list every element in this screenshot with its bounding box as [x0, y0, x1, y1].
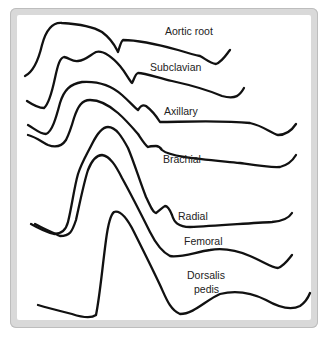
label-aortic-root: Aortic root: [165, 25, 213, 37]
wave-brachial: [28, 100, 296, 167]
wave-radial: [31, 127, 292, 234]
pulse-waveform-diagram: Aortic root Subclavian Axillary Brachial…: [0, 0, 332, 342]
label-pedis: pedis: [194, 283, 219, 295]
wave-axillary: [28, 82, 296, 135]
label-radial: Radial: [178, 210, 208, 222]
wave-subclavian: [27, 52, 244, 108]
label-subclavian: Subclavian: [150, 61, 202, 73]
label-femoral: Femoral: [184, 235, 223, 247]
label-dorsalis: Dorsalis: [187, 269, 225, 281]
label-axillary: Axillary: [164, 105, 199, 117]
label-brachial: Brachial: [163, 153, 201, 165]
wave-femoral: [35, 155, 292, 268]
